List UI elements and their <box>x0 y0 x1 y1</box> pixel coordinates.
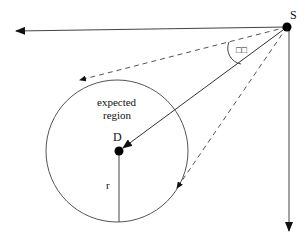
source-to-destination-arrow <box>123 27 287 148</box>
x-axis-arrow <box>16 27 287 31</box>
angle-label: □□ <box>236 45 247 55</box>
region-label-line1: expected <box>97 96 137 108</box>
source-label: S <box>290 8 297 22</box>
diagram-canvas: S D expected region r □□ <box>0 0 308 247</box>
destination-label: D <box>113 130 122 144</box>
radius-label: r <box>106 179 110 191</box>
region-label-line2: region <box>103 109 132 121</box>
source-node <box>283 23 292 32</box>
lower-tangent-dashed <box>177 27 287 188</box>
destination-node <box>115 147 124 156</box>
